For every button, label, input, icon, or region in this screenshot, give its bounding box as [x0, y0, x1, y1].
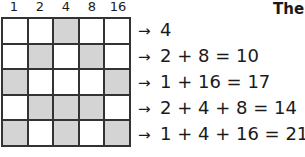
arrow-icon: → — [138, 96, 160, 122]
row-expression: 1 + 4 + 16 = 21 — [160, 123, 305, 144]
grid-cell-shaded — [2, 120, 28, 146]
grid-cell-shaded — [53, 120, 79, 146]
grid-cell — [2, 18, 28, 44]
grid-cell — [2, 95, 28, 121]
grid-cell — [104, 44, 130, 70]
row-value: →1 + 4 + 16 = 21 — [138, 121, 305, 147]
title-fragment: The — [273, 0, 304, 18]
arrow-icon: → — [138, 44, 160, 70]
row-value: →4 — [138, 17, 305, 43]
row-values: →4 →2 + 8 = 10 →1 + 16 = 17 →2 + 4 + 8 =… — [138, 17, 305, 147]
column-header: 2 — [27, 0, 53, 16]
grid-cell — [79, 18, 105, 44]
grid-cell — [53, 69, 79, 95]
grid-cell — [28, 18, 54, 44]
row-value: →2 + 4 + 8 = 14 — [138, 95, 305, 121]
grid-cell-shaded — [28, 95, 54, 121]
arrow-icon: → — [138, 18, 160, 44]
column-headers: 1 2 4 8 16 — [0, 0, 132, 16]
grid-cell-shaded — [53, 18, 79, 44]
grid-cell-shaded — [2, 69, 28, 95]
grid-cell — [28, 120, 54, 146]
row-expression: 1 + 16 = 17 — [160, 71, 270, 92]
grid-cell — [28, 69, 54, 95]
grid-cell-shaded — [79, 95, 105, 121]
grid-cell — [2, 44, 28, 70]
grid-cell — [79, 69, 105, 95]
grid-cell-shaded — [104, 120, 130, 146]
grid-cell-shaded — [53, 95, 79, 121]
arrow-icon: → — [138, 70, 160, 96]
row-expression: 2 + 4 + 8 = 14 — [160, 97, 297, 118]
grid-cell — [79, 120, 105, 146]
grid-cell-shaded — [104, 69, 130, 95]
grid-cell — [53, 44, 79, 70]
grid-cell-shaded — [28, 44, 54, 70]
arrow-icon: → — [138, 122, 160, 148]
column-header: 16 — [105, 0, 131, 16]
row-value: →1 + 16 = 17 — [138, 69, 305, 95]
row-expression: 4 — [160, 19, 171, 40]
column-header: 8 — [79, 0, 105, 16]
row-value: →2 + 8 = 10 — [138, 43, 305, 69]
row-expression: 2 + 8 = 10 — [160, 45, 259, 66]
grid-cell — [104, 18, 130, 44]
binary-grid — [1, 17, 131, 147]
column-header: 1 — [1, 0, 27, 16]
grid-cell-shaded — [79, 44, 105, 70]
column-header: 4 — [53, 0, 79, 16]
grid-cell — [104, 95, 130, 121]
